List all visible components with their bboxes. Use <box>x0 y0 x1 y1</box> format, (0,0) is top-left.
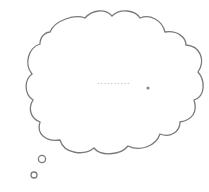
small-bubble-upper <box>38 155 45 162</box>
thought-text: .......... <box>97 77 130 86</box>
cursor-dot <box>146 86 149 89</box>
small-bubble-lower <box>31 172 37 178</box>
thought-bubble-canvas: .......... <box>0 0 209 192</box>
